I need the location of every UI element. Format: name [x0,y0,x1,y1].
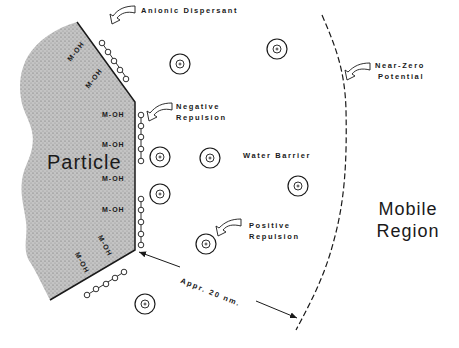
near-zero-boundary [296,15,346,330]
surface-group-label: M-OH [102,206,125,213]
water-barrier-label: Water Barrier [243,150,311,161]
negative-repulsion-label-line1: Negative [176,101,220,112]
anionic-chain-vertical-2 [138,196,144,248]
surface-group-label: M-OH [102,175,125,182]
callout-arrows [110,6,370,236]
particle-label: Particle [47,150,122,174]
distance-arrow-left [139,252,180,267]
positive-repulsion-label-line1: Positive [249,220,291,231]
callout-arrow-anionic [110,6,135,24]
mobile-region-label-line1: Mobile [368,198,448,220]
positive-ions [135,39,308,314]
callout-arrow-negative [147,103,172,121]
mobile-region-label-line2: Region [368,220,448,242]
near-zero-label-line1: Near-Zero [375,60,425,71]
callout-arrow-nearzero [345,63,370,80]
near-zero-label-line2: Potential [378,71,424,82]
surface-group-label: M-OH [102,141,125,148]
negative-repulsion-label-line2: Repulsion [176,112,227,123]
distance-arrow-right [256,301,297,318]
callout-arrow-positive [216,219,241,236]
surface-group-label: M-OH [102,111,125,118]
anionic-chain-vertical-1 [138,112,144,164]
positive-repulsion-label-line2: Repulsion [249,231,300,242]
anionic-dispersant-label: Anionic Dispersant [141,5,238,16]
plus-signs [144,48,300,306]
